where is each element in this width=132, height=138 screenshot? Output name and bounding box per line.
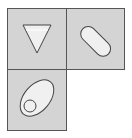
shapes-layer <box>0 0 132 138</box>
ellipse-with-circle-icon <box>14 74 61 123</box>
inverted-triangle-icon <box>23 25 51 53</box>
capsule-icon <box>78 23 114 59</box>
